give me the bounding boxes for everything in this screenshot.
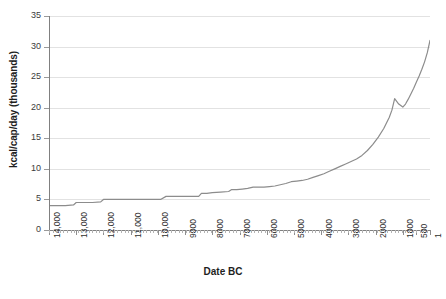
x-minor-tick-mark (387, 230, 388, 233)
x-minor-tick-mark (229, 230, 230, 233)
x-minor-tick-mark (74, 230, 75, 233)
y-tick-mark (44, 169, 49, 170)
x-minor-tick-mark (337, 230, 338, 233)
x-minor-tick-mark (71, 230, 72, 233)
x-minor-tick-mark (200, 230, 201, 233)
x-minor-tick-mark (110, 230, 111, 233)
x-minor-tick-mark (258, 230, 259, 233)
x-minor-tick-mark (366, 230, 367, 233)
x-axis-title: Date BC (0, 266, 446, 277)
x-minor-tick-mark (395, 230, 396, 233)
x-tick-label: 5000 (297, 219, 306, 238)
x-minor-tick-mark (197, 230, 198, 233)
x-minor-tick-mark (139, 230, 140, 233)
x-minor-tick-mark (114, 230, 115, 233)
x-tick-label: 14,000 (53, 212, 62, 238)
y-tick-mark (44, 47, 49, 48)
y-tick-label: 30 (0, 42, 41, 51)
x-minor-tick-mark (287, 230, 288, 233)
x-minor-tick-mark (251, 230, 252, 233)
x-minor-tick-mark (92, 230, 93, 233)
x-tick-label: 4000 (325, 219, 334, 238)
x-minor-tick-mark (297, 230, 298, 233)
x-minor-tick-mark (377, 230, 378, 233)
x-minor-tick-mark (103, 230, 104, 233)
x-tick-mark (212, 230, 213, 235)
y-tick-label: 10 (0, 164, 41, 173)
x-minor-tick-mark (427, 230, 428, 233)
x-minor-tick-mark (301, 230, 302, 233)
x-tick-label: 8000 (216, 219, 225, 238)
x-minor-tick-mark (240, 230, 241, 233)
x-minor-tick-mark (359, 230, 360, 233)
x-minor-tick-mark (204, 230, 205, 233)
x-minor-tick-mark (391, 230, 392, 233)
x-tick-mark (430, 230, 431, 235)
x-minor-tick-mark (369, 230, 370, 233)
x-minor-tick-mark (279, 230, 280, 233)
x-minor-tick-mark (157, 230, 158, 233)
x-minor-tick-mark (362, 230, 363, 233)
x-minor-tick-mark (312, 230, 313, 233)
x-minor-tick-mark (56, 230, 57, 233)
y-tick-label: 35 (0, 11, 41, 20)
x-minor-tick-mark (193, 230, 194, 233)
x-minor-tick-mark (261, 230, 262, 233)
x-minor-tick-mark (125, 230, 126, 233)
y-axis-line (49, 16, 50, 231)
x-tick-label: 1000 (406, 219, 415, 238)
x-minor-tick-mark (132, 230, 133, 233)
x-minor-tick-mark (207, 230, 208, 233)
x-tick-label: 11,000 (134, 213, 143, 238)
x-minor-tick-mark (53, 230, 54, 233)
x-tick-label: 13,000 (80, 212, 89, 238)
x-minor-tick-mark (341, 230, 342, 233)
x-tick-label: 9000 (189, 219, 198, 238)
x-minor-tick-mark (78, 230, 79, 233)
x-minor-tick-mark (233, 230, 234, 233)
x-tick-label: 12,000 (107, 212, 116, 238)
x-minor-tick-mark (423, 230, 424, 233)
x-minor-tick-mark (398, 230, 399, 233)
plot-area (49, 16, 430, 230)
x-minor-tick-mark (215, 230, 216, 233)
x-minor-tick-mark (348, 230, 349, 233)
x-minor-tick-mark (225, 230, 226, 233)
x-minor-tick-mark (308, 230, 309, 233)
x-minor-tick-mark (409, 230, 410, 233)
x-minor-tick-mark (96, 230, 97, 233)
x-minor-tick-mark (171, 230, 172, 233)
y-tick-mark (44, 199, 49, 200)
x-minor-tick-mark (179, 230, 180, 233)
x-minor-tick-mark (117, 230, 118, 233)
x-minor-tick-mark (85, 230, 86, 233)
x-minor-tick-mark (161, 230, 162, 233)
x-minor-tick-mark (153, 230, 154, 233)
x-minor-tick-mark (175, 230, 176, 233)
x-minor-tick-mark (272, 230, 273, 233)
y-tick-mark (44, 108, 49, 109)
x-minor-tick-mark (413, 230, 414, 233)
x-minor-tick-mark (236, 230, 237, 233)
x-minor-tick-mark (168, 230, 169, 233)
x-minor-tick-mark (146, 230, 147, 233)
x-minor-tick-mark (247, 230, 248, 233)
series-line-kcal-per-cap-per-day (49, 16, 430, 230)
x-minor-tick-mark (89, 230, 90, 233)
x-minor-tick-mark (150, 230, 151, 233)
x-minor-tick-mark (189, 230, 190, 233)
x-minor-tick-mark (107, 230, 108, 233)
x-minor-tick-mark (60, 230, 61, 233)
y-tick-label: 25 (0, 72, 41, 81)
x-minor-tick-mark (269, 230, 270, 233)
x-minor-tick-mark (222, 230, 223, 233)
chart-container: kcal/cap/day (thousands) 05101520253035 … (0, 0, 446, 299)
x-minor-tick-mark (330, 230, 331, 233)
x-minor-tick-mark (67, 230, 68, 233)
x-tick-label: 2000 (379, 219, 388, 238)
x-minor-tick-mark (323, 230, 324, 233)
x-minor-tick-mark (319, 230, 320, 233)
x-minor-tick-mark (283, 230, 284, 233)
x-minor-tick-mark (416, 230, 417, 233)
x-minor-tick-mark (254, 230, 255, 233)
